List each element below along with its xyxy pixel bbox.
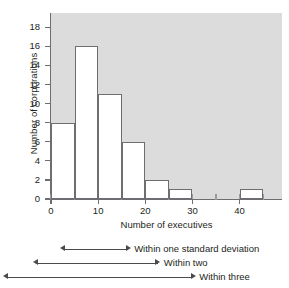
y-axis-tick-label: 4 — [14, 156, 40, 166]
histogram-bar — [75, 46, 99, 199]
arrow-right-icon — [191, 273, 196, 279]
histogram-bar — [122, 142, 146, 199]
x-axis-tick — [50, 199, 51, 204]
x-axis-tick-label: 30 — [177, 206, 207, 216]
histogram-bar — [98, 94, 122, 199]
x-axis-tick-label: 0 — [36, 206, 66, 216]
arrow-right-icon — [155, 259, 160, 265]
x-axis-tick — [192, 199, 193, 204]
y-axis-tick-label: 6 — [14, 137, 40, 147]
y-axis-tick — [45, 179, 50, 180]
annotation-line — [6, 277, 193, 278]
x-axis-tick-label: 10 — [83, 206, 113, 216]
annotation-row: Within two — [0, 257, 289, 269]
annotation-row: Within one standard deviation — [0, 243, 289, 255]
histogram-bar — [240, 189, 264, 199]
histogram-bar — [51, 123, 75, 199]
annotation-line — [36, 263, 158, 264]
y-axis-tick-label: 18 — [14, 22, 40, 32]
arrow-right-icon — [126, 245, 131, 251]
y-axis-tick-label: 8 — [14, 118, 40, 128]
x-axis-tick — [239, 199, 240, 204]
y-axis-tick-label: 16 — [14, 41, 40, 51]
y-axis-tick — [45, 122, 50, 123]
y-axis-tick-label: 10 — [14, 99, 40, 109]
arrow-left-icon — [33, 259, 38, 265]
y-axis-tick — [45, 27, 50, 28]
histogram-bar — [169, 189, 193, 199]
x-axis-tick — [145, 199, 146, 204]
y-axis-tick — [45, 46, 50, 47]
y-axis-tick-label: 12 — [14, 80, 40, 90]
y-axis-tick — [45, 65, 50, 66]
x-axis-tick-label: 20 — [130, 206, 160, 216]
x-axis-tick — [98, 199, 99, 204]
x-axis-tick-label: 40 — [225, 206, 255, 216]
y-axis-tick — [45, 84, 50, 85]
arrow-left-icon — [60, 245, 65, 251]
x-axis-title: Number of executives — [51, 219, 282, 230]
y-axis-tick — [45, 198, 50, 199]
annotation-label: Within three — [199, 271, 250, 283]
annotation-label: Within one standard deviation — [134, 243, 259, 255]
histogram-figure: Number of corporations 024681012141618 0… — [0, 0, 289, 288]
annotation-line — [63, 249, 128, 250]
histogram-bar — [145, 180, 169, 199]
x-axis-minor-tick — [215, 194, 216, 200]
arrow-left-icon — [3, 273, 8, 279]
y-axis-tick — [45, 141, 50, 142]
y-axis-tick — [45, 103, 50, 104]
y-axis-tick-label: 14 — [14, 60, 40, 70]
y-axis-tick-label: 0 — [14, 194, 40, 204]
y-axis-tick-label: 2 — [14, 175, 40, 185]
annotation-row: Within three — [0, 271, 289, 283]
annotation-label: Within two — [164, 257, 208, 269]
y-axis-tick — [45, 160, 50, 161]
